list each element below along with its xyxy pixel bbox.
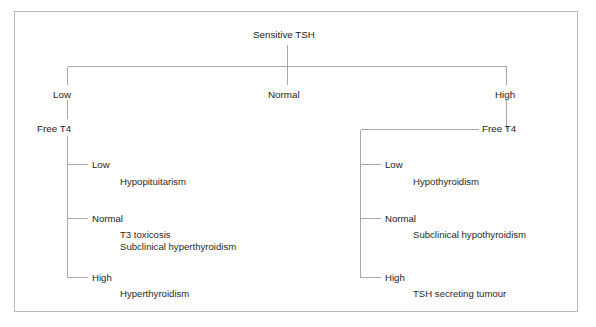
node-left-group-low-label: Low [92,159,110,170]
node-right-group-high-item-0: TSH secreting tumour [413,288,506,299]
node-free-t4-right: Free T4 [482,123,516,134]
node-left-group-normal-label: Normal [92,213,123,224]
node-right-group-normal-label: Normal [385,213,416,224]
node-right-group-high-label: High [385,272,405,283]
node-right-group-low-label: Low [385,159,403,170]
figure-canvas: Sensitive TSH Low Normal High Free T4 Fr… [0,0,596,327]
node-left-group-high-item-0: Hyperthyroidism [120,288,189,299]
node-left-group-normal-item-1: Subclinical hyperthyroidism [120,241,236,252]
node-free-t4-left: Free T4 [37,123,71,134]
node-left-group-high-label: High [92,272,112,283]
node-left-group-normal-item-0: T3 toxicosis [120,229,171,240]
node-tsh-normal: Normal [268,89,300,100]
node-left-group-low-item-0: Hypopituitarism [120,176,186,187]
node-sensitive-tsh: Sensitive TSH [253,29,315,40]
node-right-group-low-item-0: Hypothyroidism [413,176,479,187]
node-right-group-normal-item-0: Subclinical hypothyroidism [413,229,526,240]
node-tsh-low: Low [53,89,71,100]
node-tsh-high: High [495,89,515,100]
